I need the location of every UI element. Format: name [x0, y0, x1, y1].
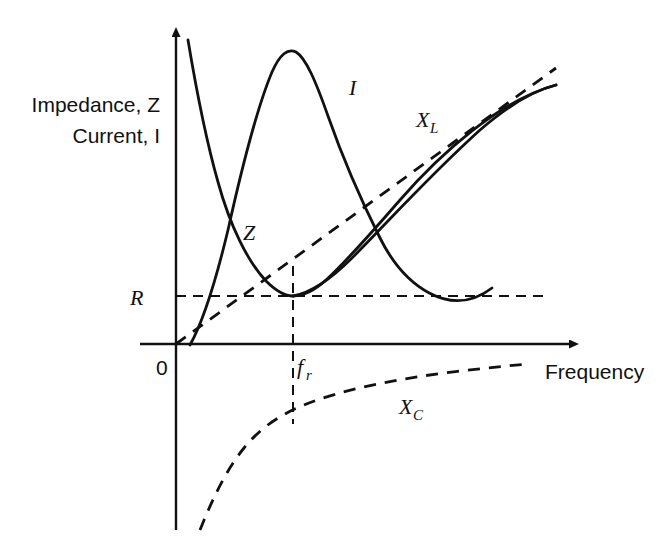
origin-label: 0	[156, 356, 168, 379]
resonant-frequency-subscript: r	[306, 367, 312, 383]
xc-curve-label-subscript: C	[413, 407, 424, 423]
x-axis-caption: Frequency	[545, 360, 645, 383]
xl-curve-label-subscript: L	[429, 120, 438, 136]
y-axis-caption-line2: Current, I	[72, 124, 160, 147]
resistance-label: R	[129, 285, 144, 310]
rlc-resonance-figure: Impedance, Z Current, I Frequency 0 R f …	[0, 0, 660, 551]
impedance-curve-label: Z	[243, 220, 256, 245]
y-axis-caption-line1: Impedance, Z	[32, 93, 161, 116]
rlc-resonance-chart: Impedance, Z Current, I Frequency 0 R f …	[0, 0, 660, 551]
xc-curve-label: X	[398, 394, 414, 419]
xl-curve-label: X	[415, 107, 431, 132]
